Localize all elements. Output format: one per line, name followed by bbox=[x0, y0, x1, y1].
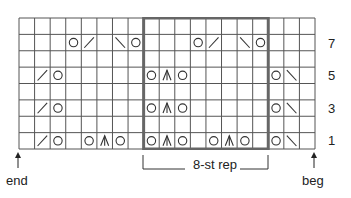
annotations bbox=[0, 0, 351, 198]
beg-label: beg bbox=[302, 173, 324, 188]
end-label: end bbox=[6, 173, 28, 188]
end-arrow-icon bbox=[15, 152, 21, 168]
repeat-label: 8-st rep bbox=[190, 157, 240, 172]
beg-arrow-icon bbox=[311, 152, 317, 168]
